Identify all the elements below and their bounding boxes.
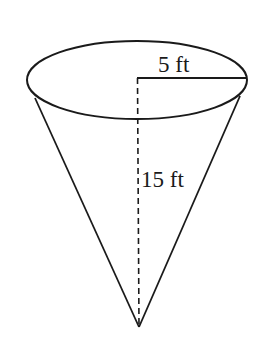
cone-left-side (35, 98, 139, 327)
height-dashed-line (138, 78, 140, 327)
cone-diagram: 5 ft 15 ft (0, 0, 258, 355)
radius-label: 5 ft (158, 52, 190, 77)
height-label: 15 ft (141, 167, 184, 192)
cone-right-side (139, 96, 240, 327)
cone-figure: 5 ft 15 ft (0, 0, 258, 355)
